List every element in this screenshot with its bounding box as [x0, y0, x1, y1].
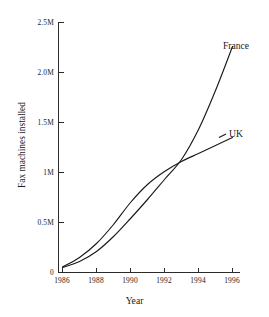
y-tick-label-500000: 0.5M [24, 218, 54, 227]
x-tick-label-1996: 1996 [224, 276, 240, 285]
y-tick-label-2000000: 2.0M [24, 68, 54, 77]
uk-label-leader [219, 134, 226, 138]
y-axis-ticks [59, 23, 65, 223]
x-tick-label-1994: 1994 [190, 276, 206, 285]
y-tick-label-0: 0 [24, 268, 54, 277]
x-axis-ticks [63, 268, 233, 273]
x-tick-label-1986: 1986 [54, 276, 70, 285]
x-tick-label-1988: 1988 [88, 276, 104, 285]
chart-figure: 2.5M 2.0M 1.5M 1M 0.5M 0 1986 1988 1990 … [0, 0, 269, 317]
y-tick-label-2500000: 2.5M [24, 18, 54, 27]
series-group [63, 47, 233, 268]
series-label-uk: UK [229, 128, 243, 139]
y-axis-title: Fax machines installed [17, 65, 27, 225]
y-tick-label-1000000: 1M [24, 168, 54, 177]
x-tick-label-1992: 1992 [156, 276, 172, 285]
y-tick-label-1500000: 1.5M [24, 118, 54, 127]
x-tick-label-1990: 1990 [122, 276, 138, 285]
series-label-france: France [223, 40, 249, 51]
x-axis-title: Year [0, 295, 269, 306]
series-line-france [63, 47, 233, 268]
series-line-uk [63, 138, 233, 268]
